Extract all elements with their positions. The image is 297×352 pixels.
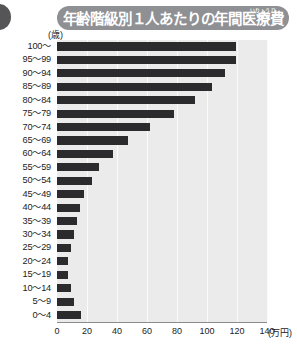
bar bbox=[57, 42, 236, 50]
y-axis-tick-label: 40～44 bbox=[0, 201, 51, 214]
y-axis-tick-label: 75～79 bbox=[0, 107, 51, 120]
y-axis-tick-label: 65～69 bbox=[0, 134, 51, 147]
bar bbox=[57, 271, 68, 279]
bar bbox=[57, 311, 81, 319]
bar-rows-container: 100～95～9990～9485～8980～8475～7970～7465～696… bbox=[0, 0, 297, 352]
bar bbox=[57, 83, 212, 91]
y-axis-tick-label: 20～24 bbox=[0, 255, 51, 268]
x-axis-tick-label: 140 bbox=[259, 326, 274, 336]
y-axis-tick-label: 35～39 bbox=[0, 215, 51, 228]
bar-row: 20～24 bbox=[0, 255, 297, 268]
bar bbox=[57, 150, 113, 158]
bar bbox=[57, 217, 77, 225]
y-axis-tick-label: 70～74 bbox=[0, 121, 51, 134]
bar-row: 55～59 bbox=[0, 161, 297, 174]
bar bbox=[57, 190, 84, 198]
bar-row: 70～74 bbox=[0, 121, 297, 134]
y-axis-tick-label: 30～34 bbox=[0, 228, 51, 241]
y-axis-tick-label: 80～84 bbox=[0, 94, 51, 107]
bar-row: 65～69 bbox=[0, 134, 297, 147]
bar bbox=[57, 96, 195, 104]
bar bbox=[57, 136, 128, 144]
bar bbox=[57, 204, 80, 212]
bar bbox=[57, 244, 71, 252]
bar-row: 95～99 bbox=[0, 53, 297, 66]
bar bbox=[57, 163, 99, 171]
x-axis-line bbox=[57, 322, 267, 323]
bar bbox=[57, 56, 236, 64]
y-axis-tick-label: 95～99 bbox=[0, 53, 51, 66]
bar-row: 75～79 bbox=[0, 107, 297, 120]
bar-row: 100～ bbox=[0, 40, 297, 53]
y-axis-tick-label: 55～59 bbox=[0, 161, 51, 174]
x-axis-tick-label: 120 bbox=[229, 326, 244, 336]
y-axis-tick-label: 50～54 bbox=[0, 174, 51, 187]
bar-row: 15～19 bbox=[0, 268, 297, 281]
x-axis-tick-label: 100 bbox=[199, 326, 214, 336]
bar-row: 5～9 bbox=[0, 295, 297, 308]
y-axis-tick-label: 45～49 bbox=[0, 188, 51, 201]
bar-row: 35～39 bbox=[0, 215, 297, 228]
bar-row: 90～94 bbox=[0, 67, 297, 80]
bar-row: 45～49 bbox=[0, 188, 297, 201]
bar-row: 10～14 bbox=[0, 282, 297, 295]
bar-row: 0～4 bbox=[0, 309, 297, 322]
bar-row: 30～34 bbox=[0, 228, 297, 241]
y-axis-tick-label: 90～94 bbox=[0, 67, 51, 80]
bar-row: 85～89 bbox=[0, 80, 297, 93]
bar bbox=[57, 230, 74, 238]
bar bbox=[57, 123, 150, 131]
y-axis-tick-label: 85～89 bbox=[0, 80, 51, 93]
y-axis-tick-label: 15～19 bbox=[0, 268, 51, 281]
bar-row: 50～54 bbox=[0, 174, 297, 187]
x-axis-tick-label: 40 bbox=[112, 326, 122, 336]
bar bbox=[57, 284, 71, 292]
medical-expense-bar-chart: 年齢階級別１人あたりの年間医療費 いりょうひ (歳) 100～95～9990～9… bbox=[0, 0, 297, 352]
bar bbox=[57, 69, 225, 77]
bar bbox=[57, 257, 68, 265]
y-axis-tick-label: 10～14 bbox=[0, 282, 51, 295]
x-axis-tick-label: 0 bbox=[54, 326, 59, 336]
x-axis-tick-label: 80 bbox=[172, 326, 182, 336]
bar-row: 25～29 bbox=[0, 241, 297, 254]
y-axis-tick-label: 60～64 bbox=[0, 147, 51, 160]
x-axis-tick-label: 60 bbox=[142, 326, 152, 336]
x-axis-tick-label: 20 bbox=[82, 326, 92, 336]
bar bbox=[57, 110, 174, 118]
bar bbox=[57, 177, 92, 185]
y-axis-tick-label: 25～29 bbox=[0, 241, 51, 254]
y-axis-tick-label: 5～9 bbox=[0, 295, 51, 308]
bar-row: 60～64 bbox=[0, 147, 297, 160]
bar-row: 40～44 bbox=[0, 201, 297, 214]
bar-row: 80～84 bbox=[0, 94, 297, 107]
y-axis-tick-label: 0～4 bbox=[0, 309, 51, 322]
y-axis-tick-label: 100～ bbox=[0, 40, 51, 53]
bar bbox=[57, 298, 74, 306]
